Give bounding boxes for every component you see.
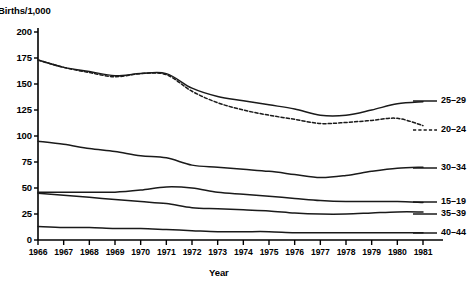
y-tick-label: 0 xyxy=(2,235,32,244)
y-tick-label: 150 xyxy=(2,79,32,88)
y-tick-label: 100 xyxy=(2,131,32,140)
y-axis-title: Births/1,000 xyxy=(0,6,51,15)
legend-item-35-39: 35–39 xyxy=(441,209,466,218)
series-line-20-24 xyxy=(38,60,423,126)
y-tick-label: 50 xyxy=(2,183,32,192)
legend-item-30-34: 30–34 xyxy=(441,163,466,172)
series-line-40-44 xyxy=(38,226,423,232)
x-tick-label: 1981 xyxy=(407,248,439,257)
y-tick-label: 25 xyxy=(2,209,32,218)
series-line-30-34 xyxy=(38,141,423,177)
x-axis-title: Year xyxy=(209,268,229,277)
legend-item-15-19: 15–19 xyxy=(441,197,466,206)
y-tick-label: 75 xyxy=(2,157,32,166)
legend-item-40-44: 40–44 xyxy=(441,228,466,237)
series-group xyxy=(38,60,423,233)
y-tick-label: 125 xyxy=(2,105,32,114)
legend-item-20-24: 20–24 xyxy=(441,125,466,134)
y-tick-label: 200 xyxy=(2,27,32,36)
y-tick-label: 175 xyxy=(2,53,32,62)
series-line-25-29 xyxy=(38,60,423,116)
series-line-35-39 xyxy=(38,193,423,214)
series-line-15-19 xyxy=(38,187,423,203)
birth-rate-chart: Births/1,000 200 175 150 125 100 75 50 2… xyxy=(0,0,471,293)
legend-item-25-29: 25–29 xyxy=(441,96,466,105)
